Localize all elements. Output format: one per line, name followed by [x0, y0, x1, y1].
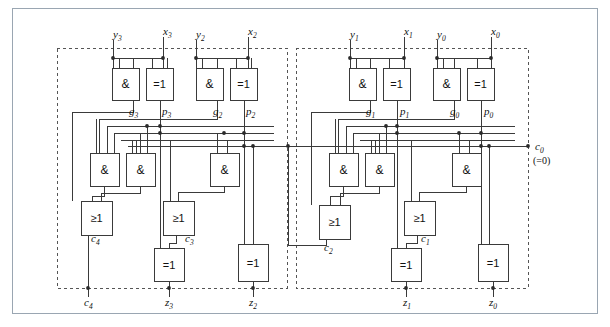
- gate-symbol-and-g3: &: [121, 77, 129, 91]
- gate-symbol-or-c3: ≥1: [172, 212, 184, 224]
- gate-symbol-xor-p1: =1: [390, 78, 403, 90]
- input-label-y1-sub: 1: [355, 34, 359, 43]
- output-label-z0-sub: 0: [493, 302, 497, 311]
- gate-symbol-xor-p2: =1: [237, 78, 250, 90]
- carry-in-label: c0: [535, 141, 544, 155]
- gate-symbol-and-c4b: &: [136, 163, 144, 177]
- gate-symbol-and-c3: &: [220, 163, 228, 177]
- signal-label-g2: g2: [213, 106, 222, 120]
- signal-label-g1: g1: [366, 106, 375, 120]
- gate-symbol-and-g1: &: [358, 77, 366, 91]
- gate-symbol-xor-p0: =1: [474, 78, 487, 90]
- signal-label-c4i-sub: 4: [96, 238, 100, 247]
- signal-label-g3-sub: 3: [135, 111, 139, 120]
- input-label-y1: y1: [350, 29, 359, 43]
- signal-label-g3: g3: [129, 106, 138, 120]
- signal-label-p0-sub: 0: [490, 111, 494, 120]
- output-label-z3: z3: [165, 297, 173, 311]
- signal-label-p1-sub: 1: [406, 111, 410, 120]
- gate-symbol-xor-z2: =1: [247, 257, 260, 269]
- output-label-z1: z1: [403, 297, 411, 311]
- gate-symbol-and-c2b: &: [375, 163, 383, 177]
- signal-label-g1-sub: 1: [372, 111, 376, 120]
- input-label-x0: x0: [491, 26, 500, 40]
- gate-symbol-xor-p3: =1: [153, 78, 166, 90]
- signal-label-c1i: c1: [421, 233, 430, 247]
- gate-layer: &=1&=1&=1&=1&&&&&&≥1≥1≥1≥1=1=1=1=1: [81, 68, 508, 281]
- input-label-y2-sub: 2: [201, 34, 205, 43]
- input-label-x2: x2: [248, 26, 257, 40]
- signal-label-c2i-sub: 2: [329, 247, 333, 256]
- signal-label-p2-sub: 2: [252, 111, 256, 120]
- output-label-z2-sub: 2: [253, 302, 257, 311]
- carry-in-sub: 0: [540, 146, 544, 155]
- signal-label-p2: p2: [246, 106, 255, 120]
- input-label-x1-sub: 1: [409, 31, 413, 40]
- output-label-z0: z0: [489, 297, 497, 311]
- signal-label-c1i-sub: 1: [426, 238, 430, 247]
- gate-symbol-or-c4: ≥1: [90, 212, 102, 224]
- gate-symbol-or-c1: ≥1: [413, 212, 425, 224]
- gate-symbol-xor-z0: =1: [487, 257, 500, 269]
- signal-label-c3i: c3: [185, 233, 194, 247]
- gate-symbol-and-g2: &: [205, 77, 213, 91]
- gate-symbol-xor-z1: =1: [400, 259, 413, 271]
- signal-label-c3i-sub: 3: [190, 238, 194, 247]
- gate-symbol-and-c1: &: [462, 163, 470, 177]
- signal-label-g0: g0: [450, 106, 459, 120]
- input-label-x3: x3: [163, 26, 172, 40]
- signal-label-g2-sub: 2: [219, 111, 223, 120]
- input-label-y0: y0: [437, 29, 446, 43]
- figure-root: .w{stroke:#3a3a3a;stroke-width:1;fill:no…: [0, 0, 610, 327]
- gate-symbol-xor-z3: =1: [163, 259, 176, 271]
- output-label-z1-sub: 1: [407, 302, 411, 311]
- signal-label-p3: p3: [162, 106, 171, 120]
- input-label-y3-sub: 3: [118, 34, 122, 43]
- signal-label-g0-sub: 0: [456, 111, 460, 120]
- circuit-canvas: .w{stroke:#3a3a3a;stroke-width:1;fill:no…: [0, 0, 610, 327]
- input-label-y3: y3: [113, 29, 122, 43]
- gate-symbol-and-g0: &: [442, 77, 450, 91]
- input-label-x1: x1: [404, 26, 413, 40]
- gate-symbol-or-c2: ≥1: [328, 216, 340, 228]
- signal-label-p3-sub: 3: [168, 111, 172, 120]
- gate-symbol-and-c2a: &: [339, 163, 347, 177]
- signal-label-p0: p0: [484, 106, 493, 120]
- signal-label-c2i: c2: [324, 242, 333, 256]
- input-label-x2-sub: 2: [253, 31, 257, 40]
- output-label-z2: z2: [249, 297, 257, 311]
- input-label-y0-sub: 0: [442, 34, 446, 43]
- input-label-x3-sub: 3: [168, 31, 172, 40]
- signal-label-p1: p1: [400, 106, 409, 120]
- output-label-c4-sub: 4: [89, 302, 93, 311]
- output-label-c4: c4: [84, 297, 93, 311]
- gate-symbol-and-c4a: &: [100, 163, 108, 177]
- output-label-z3-sub: 3: [169, 302, 173, 311]
- input-label-y2: y2: [196, 29, 205, 43]
- input-label-x0-sub: 0: [496, 31, 500, 40]
- signal-label-c4i: c4: [91, 233, 100, 247]
- carry-in-value-label: (=0): [533, 156, 550, 166]
